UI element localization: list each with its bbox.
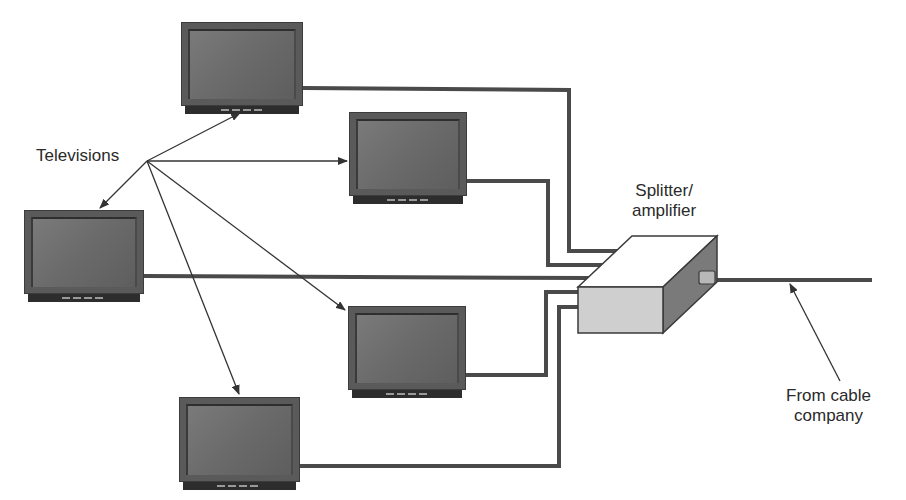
television-upper-middle	[349, 112, 467, 204]
cable-label-line2: company	[786, 406, 871, 426]
television-lower-middle	[348, 306, 466, 398]
splitter-label-line1: Splitter/	[632, 181, 696, 201]
tv-screen	[355, 313, 459, 383]
tv-screen	[186, 404, 293, 475]
from-cable-company-label: From cable company	[786, 386, 871, 426]
cable-tv-left	[144, 276, 590, 278]
cable-tv-distribution-diagram: Televisions Splitter/ amplifier From cab…	[0, 0, 906, 500]
splitter-amplifier-label: Splitter/ amplifier	[632, 181, 696, 221]
television-left	[24, 210, 144, 302]
televisions-label: Televisions	[36, 146, 119, 166]
television-bottom	[179, 397, 300, 490]
television-top	[181, 22, 303, 114]
splitter-label-line2: amplifier	[632, 201, 696, 221]
cable-tv-lower-middle	[466, 292, 578, 375]
label-arrows	[100, 113, 840, 394]
tv-screen	[188, 29, 296, 99]
tv-screen	[31, 217, 137, 287]
cable-label-line1: From cable	[786, 386, 871, 406]
tv-screen	[356, 119, 460, 189]
